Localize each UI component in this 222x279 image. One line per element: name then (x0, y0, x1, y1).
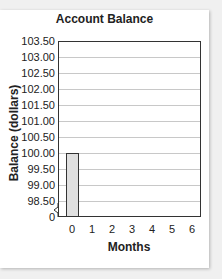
axis-break-icon (52, 203, 62, 217)
gridline (59, 121, 200, 122)
y-tick-label: 99.50 (27, 163, 55, 175)
gridline (59, 57, 200, 58)
y-tick-label: 102.50 (21, 67, 55, 79)
plot-area (58, 41, 201, 217)
y-tick-label: 100.50 (21, 131, 55, 143)
x-tick-label: 1 (89, 223, 95, 235)
gridline (59, 153, 200, 154)
x-tick-label: 4 (149, 223, 155, 235)
x-tick-label: 6 (189, 223, 195, 235)
chart-title: Account Balance (0, 12, 209, 26)
y-tick-label: 103.00 (21, 51, 55, 63)
bar-month-0 (66, 153, 79, 217)
x-tick-label: 2 (109, 223, 115, 235)
y-tick-label: 101.50 (21, 99, 55, 111)
y-tick-label: 98.50 (27, 195, 55, 207)
x-tick-label: 5 (169, 223, 175, 235)
gridline (59, 137, 200, 138)
gridline (59, 105, 200, 106)
x-axis-label: Months (108, 240, 151, 254)
x-tick-label: 3 (129, 223, 135, 235)
x-tick-label: 0 (69, 223, 75, 235)
gridline (59, 89, 200, 90)
y-axis-label: Balance (dollars) (7, 85, 21, 182)
y-tick-label: 100.00 (21, 147, 55, 159)
gridline (59, 169, 200, 170)
gridline (59, 201, 200, 202)
gridline (59, 185, 200, 186)
y-tick-label: 101.00 (21, 115, 55, 127)
y-tick-label: 99.00 (27, 179, 55, 191)
gridline (59, 73, 200, 74)
y-tick-label: 102.00 (21, 83, 55, 95)
y-tick-label: 103.50 (21, 35, 55, 47)
